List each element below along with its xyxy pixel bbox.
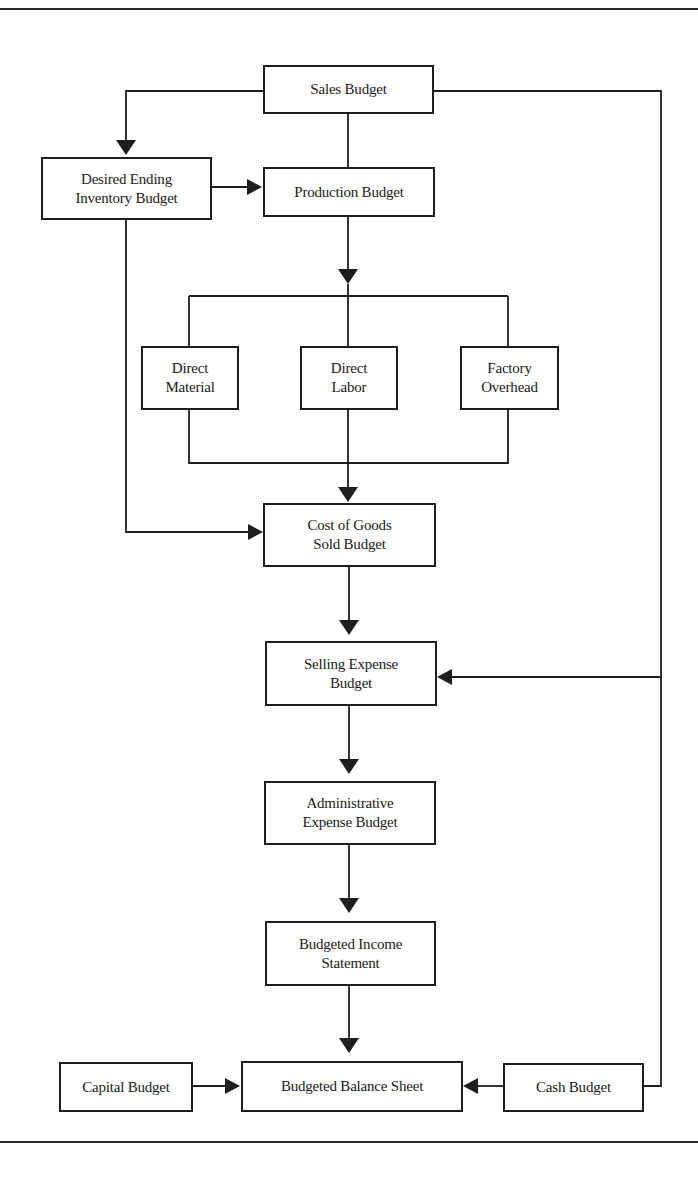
node-cash-budget: Cash Budget <box>503 1063 644 1112</box>
node-label: Desired Ending Inventory Budget <box>75 170 177 208</box>
arrowhead-icon <box>338 487 358 502</box>
arrowhead-icon <box>437 669 452 685</box>
node-label: Administrative Expense Budget <box>302 794 397 832</box>
node-desired-ending-inventory-budget: Desired Ending Inventory Budget <box>41 157 212 220</box>
node-factory-overhead: Factory Overhead <box>460 346 559 410</box>
node-direct-material: Direct Material <box>141 346 239 410</box>
node-label: Capital Budget <box>82 1078 170 1097</box>
node-label: Sales Budget <box>310 80 386 99</box>
node-sales-budget: Sales Budget <box>263 65 434 114</box>
arrowhead-icon <box>339 1038 359 1053</box>
arrowhead-icon <box>248 524 263 540</box>
node-label: Budgeted Balance Sheet <box>281 1077 423 1096</box>
node-selling-expense-budget: Selling Expense Budget <box>265 641 437 706</box>
node-label: Selling Expense Budget <box>304 655 398 693</box>
node-label: Cash Budget <box>536 1078 611 1097</box>
node-label: Factory Overhead <box>481 359 538 397</box>
node-cost-of-goods-sold-budget: Cost of Goods Sold Budget <box>263 503 436 567</box>
arrowhead-icon <box>247 179 262 195</box>
node-label: Production Budget <box>294 183 404 202</box>
arrowhead-icon <box>463 1078 478 1094</box>
node-label: Direct Material <box>165 359 214 397</box>
edge-sales-to-right-spine <box>433 91 661 1086</box>
arrowhead-icon <box>338 269 358 284</box>
arrowhead-icon <box>339 898 359 913</box>
node-production-budget: Production Budget <box>263 167 435 217</box>
node-direct-labor: Direct Labor <box>300 346 398 410</box>
arrowhead-icon <box>339 620 359 635</box>
arrowhead-icon <box>225 1078 240 1094</box>
arrowhead-icon <box>116 140 136 155</box>
node-capital-budget: Capital Budget <box>59 1062 193 1112</box>
edge-sales-to-desired-ending <box>126 91 263 142</box>
node-administrative-expense-budget: Administrative Expense Budget <box>264 781 436 845</box>
node-label: Budgeted Income Statement <box>299 935 402 973</box>
node-label: Direct Labor <box>331 359 367 397</box>
node-budgeted-balance-sheet: Budgeted Balance Sheet <box>241 1061 463 1112</box>
node-budgeted-income-statement: Budgeted Income Statement <box>265 921 436 986</box>
node-label: Cost of Goods Sold Budget <box>307 516 391 554</box>
arrowhead-icon <box>339 759 359 774</box>
